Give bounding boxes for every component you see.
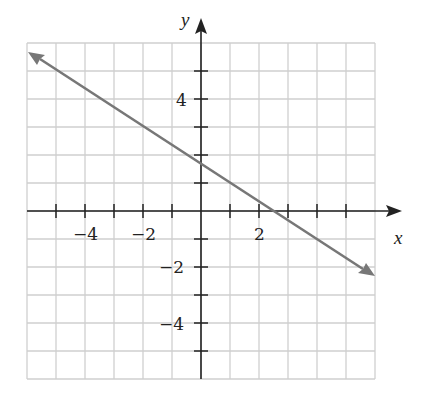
x-tick-label: −2	[131, 224, 156, 244]
axes	[27, 30, 392, 379]
x-tick-label: −4	[73, 224, 98, 244]
y-tick-label: 4	[176, 90, 187, 110]
coordinate-plane: y x −4 −2 2 4 −2 −4	[0, 0, 421, 396]
y-tick-label: −2	[159, 257, 184, 277]
line-arrow-right-icon	[358, 263, 375, 276]
y-axis-label: y	[179, 9, 190, 30]
x-axis-label: x	[393, 227, 403, 248]
y-tick-label: −4	[159, 314, 184, 334]
x-tick-label: 2	[254, 224, 265, 244]
line-arrow-left-icon	[28, 52, 45, 65]
